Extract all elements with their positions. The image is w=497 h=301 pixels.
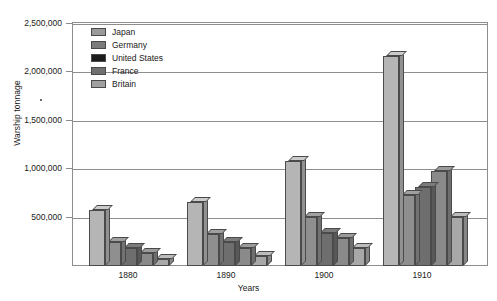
chart-legend: JapanGermanyUnited StatesFranceBritain [91, 26, 163, 90]
bar-side-face [301, 156, 306, 266]
bar-front-face [187, 202, 203, 266]
bar-side-face [399, 51, 404, 266]
legend-label: Germany [112, 41, 147, 50]
scan-artifact-dot [40, 99, 42, 101]
bar-side-face [203, 197, 208, 266]
y-tick-label: 1,500,000 [0, 115, 62, 125]
legend-swatch [91, 41, 106, 49]
legend-label: France [112, 67, 138, 76]
bar-side-face [333, 228, 338, 266]
bar-side-face [431, 182, 436, 266]
legend-label: United States [112, 54, 163, 63]
legend-item-japan: Japan [91, 26, 163, 38]
legend-swatch [91, 80, 106, 88]
y-tick-label: 2,500,000 [0, 18, 62, 28]
y-tick-label: 2,000,000 [0, 66, 62, 76]
legend-swatch [91, 28, 106, 36]
bar-side-face [415, 190, 420, 266]
x-tick-label-1900: 1900 [274, 270, 374, 280]
gridline-1000000 [73, 169, 487, 170]
legend-item-france: France [91, 65, 163, 77]
bar-side-face [105, 205, 110, 266]
bar-side-face [317, 212, 322, 266]
legend-swatch [91, 54, 106, 62]
bar-front-face [285, 161, 301, 266]
gridline-2500000 [73, 24, 487, 25]
bar-japan-1890 [187, 202, 203, 266]
x-tick-label-1910: 1910 [372, 270, 472, 280]
gridline-1500000 [73, 121, 487, 122]
legend-label: Britain [112, 80, 136, 89]
legend-label: Japan [112, 28, 135, 37]
legend-swatch [91, 67, 106, 75]
bar-side-face [447, 166, 452, 266]
bar-side-face [463, 212, 468, 266]
bar-japan-1880 [89, 210, 105, 266]
x-tick-label-1890: 1890 [176, 270, 276, 280]
legend-item-united-states: United States [91, 52, 163, 64]
x-tick-label-1880: 1880 [78, 270, 178, 280]
y-tick-label: 500,000 [0, 212, 62, 222]
bar-japan-1910 [383, 56, 399, 266]
bar-japan-1900 [285, 161, 301, 266]
bar-side-face [219, 229, 224, 266]
bar-front-face [383, 56, 399, 266]
bar-front-face [89, 210, 105, 266]
legend-item-germany: Germany [91, 39, 163, 51]
legend-item-britain: Britain [91, 78, 163, 90]
y-tick-label: 1,000,000 [0, 163, 62, 173]
warship-tonnage-chart: Warship tonnage Years 500,0001,000,0001,… [0, 0, 497, 301]
x-axis-title: Years [0, 283, 497, 293]
